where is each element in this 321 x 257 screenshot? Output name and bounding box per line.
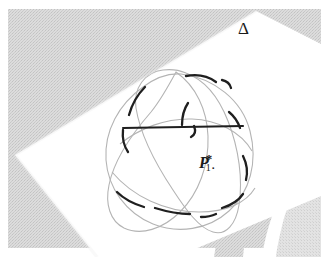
figure-canvas <box>0 0 321 257</box>
figure-container: Δ P1*. <box>0 0 321 257</box>
top-margin <box>0 0 321 9</box>
left-margin <box>0 0 8 257</box>
